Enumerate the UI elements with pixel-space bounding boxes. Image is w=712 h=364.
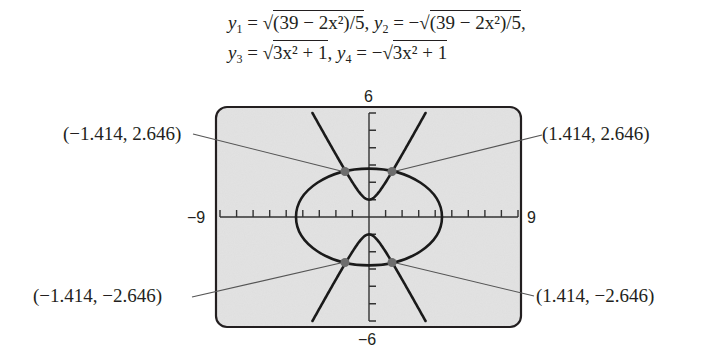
ymin-label: −6 bbox=[358, 331, 376, 349]
point-label-top-left: (−1.414, 2.646) bbox=[63, 124, 181, 144]
point-marker bbox=[341, 167, 350, 176]
xmax-label: 9 bbox=[527, 209, 536, 227]
point-label-bottom-left: (−1.414, −2.646) bbox=[33, 286, 162, 306]
point-marker bbox=[341, 258, 350, 267]
point-label-top-right: (1.414, 2.646) bbox=[542, 124, 650, 144]
point-label-bottom-right: (1.414, −2.646) bbox=[536, 286, 654, 306]
point-marker bbox=[388, 167, 397, 176]
graph-canvas bbox=[0, 0, 712, 364]
point-marker bbox=[388, 258, 397, 267]
xmin-label: −9 bbox=[187, 209, 205, 227]
ymax-label: 6 bbox=[364, 88, 373, 106]
